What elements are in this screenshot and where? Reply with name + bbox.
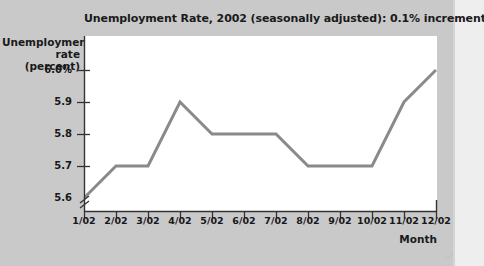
chart-figure: Unemployment Rate, 2002 (seasonally adju…: [0, 0, 454, 266]
x-tick-label-12: 12/02: [413, 215, 459, 226]
page-right-edge: [454, 0, 484, 266]
page-root: Unemployment Rate, 2002 (seasonally adju…: [0, 0, 484, 266]
x-axis-title: Month: [330, 233, 437, 245]
axes-svg: [0, 0, 454, 266]
